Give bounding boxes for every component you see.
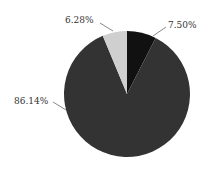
leader-line-7-50 [153,27,166,36]
slice-label-6-28: 6.28% [65,15,94,25]
pie-chart: 7.50% 6.28% 86.14% [0,0,213,173]
slice-label-86-14: 86.14% [14,96,49,106]
leader-line-86-14 [53,102,66,110]
leader-line-6-28 [100,23,113,31]
slice-label-7-50: 7.50% [168,20,197,30]
pie-slices [64,31,190,157]
